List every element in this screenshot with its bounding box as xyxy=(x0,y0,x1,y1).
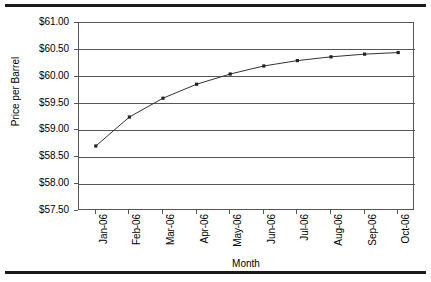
plot-area xyxy=(78,22,414,210)
x-axis-tick-label: Sep-06 xyxy=(368,214,378,246)
y-axis-tick-label: $59.50 xyxy=(0,98,69,108)
chart-figure: Price per Barrel $61.00$60.50$60.00$59.5… xyxy=(0,0,431,282)
data-point-marker xyxy=(128,115,131,118)
data-point-marker xyxy=(329,55,332,58)
x-axis-tick-labels: Jan-06Feb-06Mar-06Apr-06May-06Jun-06Jul-… xyxy=(78,212,414,258)
y-axis-tick-labels: $61.00$60.50$60.00$59.50$59.00$58.50$58.… xyxy=(0,0,74,282)
x-axis-tick-mark xyxy=(263,210,264,214)
y-axis-tick-label: $60.00 xyxy=(0,71,69,81)
x-axis-tick-label: Jul-06 xyxy=(300,214,310,241)
x-axis-tick-mark xyxy=(397,210,398,214)
data-series-line xyxy=(79,23,415,211)
data-point-marker xyxy=(363,53,366,56)
data-point-marker xyxy=(296,59,299,62)
x-axis-tick-label: Aug-06 xyxy=(334,214,344,246)
x-axis-tick-mark xyxy=(128,210,129,214)
x-axis-tick-mark xyxy=(229,210,230,214)
y-axis-tick-label: $58.50 xyxy=(0,151,69,161)
y-axis-tick-label: $61.00 xyxy=(0,17,69,27)
x-axis-tick-label: Jun-06 xyxy=(267,214,277,244)
x-axis-tick-label: May-06 xyxy=(233,214,243,247)
x-axis-tick-mark xyxy=(95,210,96,214)
data-point-marker xyxy=(161,97,164,100)
x-axis-tick-mark xyxy=(296,210,297,214)
series-line xyxy=(96,53,398,146)
data-point-marker xyxy=(195,83,198,86)
data-point-marker xyxy=(397,51,400,54)
y-axis-tick-mark xyxy=(74,210,78,211)
x-axis-tick-label: Mar-06 xyxy=(166,214,176,245)
y-axis-tick-label: $60.50 xyxy=(0,44,69,54)
data-point-marker xyxy=(229,72,232,75)
data-point-marker xyxy=(262,64,265,67)
data-point-marker xyxy=(94,144,97,147)
x-axis-title: Month xyxy=(78,258,414,269)
x-axis-tick-mark xyxy=(196,210,197,214)
x-axis-tick-label: Feb-06 xyxy=(132,214,142,245)
x-axis-tick-label: Apr-06 xyxy=(200,214,210,243)
x-axis-tick-mark xyxy=(330,210,331,214)
x-axis-tick-label: Jan-06 xyxy=(99,214,109,244)
x-axis-tick-label: Oct-06 xyxy=(401,214,411,243)
y-axis-tick-label: $58.00 xyxy=(0,178,69,188)
x-axis-tick-mark xyxy=(364,210,365,214)
x-axis-tick-mark xyxy=(162,210,163,214)
y-axis-tick-label: $57.50 xyxy=(0,205,69,215)
y-axis-tick-label: $59.00 xyxy=(0,124,69,134)
